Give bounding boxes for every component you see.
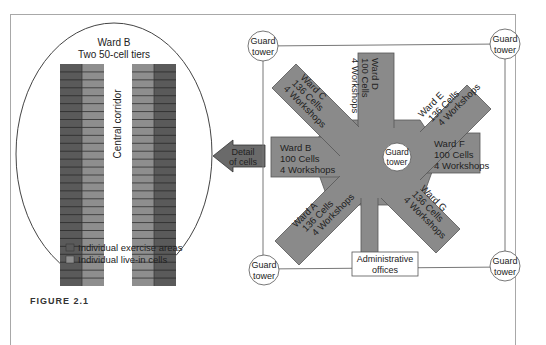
legend-swatch-exercise bbox=[66, 244, 74, 251]
arrow-label-1: Detail bbox=[231, 147, 254, 157]
admin-connector bbox=[361, 190, 378, 255]
guard-tower-top-left: Guard tower bbox=[248, 31, 278, 61]
ward-b-name: Ward B bbox=[280, 142, 311, 153]
arrow-label-2: of cells bbox=[229, 157, 258, 167]
svg-text:tower: tower bbox=[494, 45, 516, 55]
ward-f-cells: 100 Cells bbox=[434, 149, 474, 160]
administrative-offices: Administrative offices bbox=[352, 252, 418, 276]
svg-text:tower: tower bbox=[494, 267, 516, 277]
corridor-label: Central corridor bbox=[112, 89, 123, 159]
detail-title-2: Two 50-cell tiers bbox=[78, 49, 150, 60]
figure-caption: FIGURE 2.1 bbox=[30, 296, 89, 306]
legend-label-cells: Individual live-in cells bbox=[78, 254, 167, 265]
svg-text:Guard: Guard bbox=[492, 256, 517, 266]
ward-b-workshops: 4 Workshops bbox=[280, 164, 336, 175]
ward-f-workshops: 4 Workshops bbox=[434, 160, 490, 171]
legend: Individual exercise areas Individual liv… bbox=[66, 242, 183, 265]
ward-f-name: Ward F bbox=[434, 138, 465, 149]
ward-b-cells: 100 Cells bbox=[280, 153, 320, 164]
legend-swatch-cells bbox=[66, 256, 74, 263]
svg-text:offices: offices bbox=[372, 265, 398, 275]
detail-arrow: Detail of cells bbox=[213, 140, 265, 172]
svg-text:Guard: Guard bbox=[492, 34, 517, 44]
svg-text:Administrative: Administrative bbox=[357, 254, 414, 264]
guard-tower-bottom-right: Guard tower bbox=[490, 251, 520, 281]
svg-text:tower: tower bbox=[252, 47, 274, 57]
guard-tower-top-right: Guard tower bbox=[490, 29, 520, 59]
ward-d-workshops: 4 Workshops bbox=[350, 58, 361, 114]
svg-text:Guard: Guard bbox=[251, 260, 276, 270]
svg-text:Guard: Guard bbox=[250, 36, 275, 46]
svg-text:tower: tower bbox=[253, 271, 275, 281]
svg-text:tower: tower bbox=[387, 157, 408, 167]
svg-text:Guard: Guard bbox=[385, 147, 409, 157]
legend-label-exercise: Individual exercise areas bbox=[78, 242, 183, 253]
detail-title-1: Ward B bbox=[98, 37, 131, 48]
center-guard-tower: Guard tower bbox=[383, 143, 411, 171]
guard-tower-bottom-left: Guard tower bbox=[249, 255, 279, 285]
